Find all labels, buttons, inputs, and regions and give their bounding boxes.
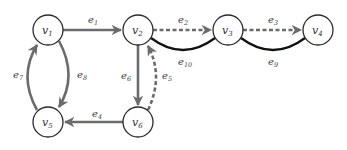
label-e2: e2 bbox=[178, 14, 188, 27]
graph-diagram: v1 v2 v3 v4 v5 v6 e1 e2 e3 e4 e5 e6 e7 e… bbox=[0, 0, 347, 150]
label-e6: e6 bbox=[121, 70, 131, 83]
node-v3: v3 bbox=[213, 15, 243, 45]
edge-e7 bbox=[28, 45, 38, 110]
label-e8: e8 bbox=[77, 69, 87, 82]
edge-e10 bbox=[151, 38, 215, 50]
label-e9: e9 bbox=[268, 56, 278, 69]
node-v6: v6 bbox=[123, 107, 153, 137]
label-e3: e3 bbox=[268, 14, 278, 27]
edge-e8 bbox=[59, 41, 69, 107]
label-e7: e7 bbox=[13, 69, 24, 82]
label-e4: e4 bbox=[92, 108, 102, 121]
node-v1: v1 bbox=[33, 15, 63, 45]
node-v5: v5 bbox=[33, 107, 63, 137]
edge-e9 bbox=[241, 38, 305, 50]
edge-e5 bbox=[148, 46, 156, 110]
label-e5: e5 bbox=[162, 70, 172, 83]
node-v4: v4 bbox=[303, 15, 333, 45]
node-v2: v2 bbox=[123, 15, 153, 45]
graph-svg: v1 v2 v3 v4 v5 v6 e1 e2 e3 e4 e5 e6 e7 e… bbox=[0, 0, 347, 150]
label-e10: e10 bbox=[178, 56, 192, 69]
label-e1: e1 bbox=[88, 14, 98, 27]
